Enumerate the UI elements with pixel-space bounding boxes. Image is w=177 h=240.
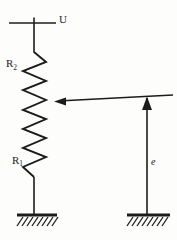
ground-symbol-left <box>17 215 58 226</box>
resistor-bottom-subscript: 1 <box>19 159 23 168</box>
ground-hatching <box>17 217 58 226</box>
ground-symbol-right <box>127 215 170 226</box>
resistor-bottom-label: R1 <box>12 154 23 169</box>
resistor-zigzag <box>23 52 46 177</box>
resistor-top-subscript: 2 <box>13 63 17 72</box>
circuit-diagram: U R2 R1 e <box>0 0 177 240</box>
left-arrowhead-icon <box>54 98 66 106</box>
supply-voltage-label: U <box>59 13 67 25</box>
tap-voltage-label: e <box>151 156 156 167</box>
circuit-figure: U R2 R1 e <box>0 0 177 240</box>
up-arrowhead-icon <box>142 97 152 111</box>
resistor-top-label: R2 <box>6 57 17 72</box>
tap-arrow-wire <box>63 95 173 101</box>
ground-hatching <box>127 217 168 226</box>
